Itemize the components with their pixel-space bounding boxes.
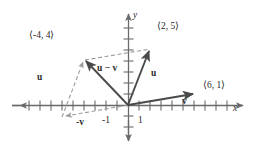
x-tick-label-neg-one: -1 — [102, 116, 110, 126]
x-axis-label: x — [233, 104, 237, 114]
solid-vectors-group — [86, 51, 193, 105]
point-label-neg4-4: ⟨-4, 4⟩ — [29, 31, 54, 41]
vector-diagram-figure: ⟨-4, 4⟩ ⟨2, 5⟩ ⟨6, 1⟩ u u u − v v -v -1 … — [0, 0, 260, 146]
x-tick-label-one: 1 — [138, 116, 143, 126]
y-axis-label: y — [133, 11, 137, 21]
point-label-2-5: ⟨2, 5⟩ — [157, 22, 179, 32]
y-axis — [124, 14, 134, 141]
point-label-6-1: ⟨6, 1⟩ — [203, 81, 225, 91]
vector-label-u-left: u — [37, 73, 42, 83]
parallel-construction-line — [85, 49, 150, 60]
vector-label-u-minus-v: u − v — [97, 64, 117, 74]
vector-label-v: v — [182, 97, 187, 107]
u-solid-vector — [128, 51, 149, 105]
vector-label-neg-v: -v — [76, 118, 84, 128]
neg-v-dashed-vector — [66, 105, 128, 116]
vector-label-u-right: u — [151, 69, 156, 79]
